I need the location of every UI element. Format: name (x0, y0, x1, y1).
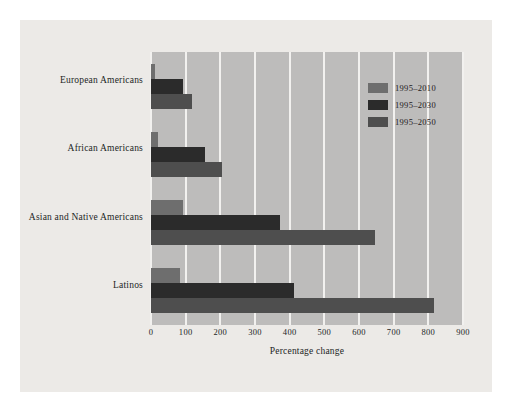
x-tick-label: 700 (387, 327, 401, 337)
bar (151, 268, 180, 283)
legend-label: 1995–2050 (395, 117, 436, 127)
bar (151, 79, 183, 94)
legend-item[interactable]: 1995–2030 (368, 97, 478, 112)
legend-swatch-icon (368, 117, 388, 127)
legend-item[interactable]: 1995–2050 (368, 114, 478, 129)
bar (151, 215, 280, 230)
x-tick-label: 200 (214, 327, 228, 337)
bar-group: African Americans (151, 132, 463, 177)
x-tick-label: 500 (318, 327, 332, 337)
x-tick-label: 300 (248, 327, 262, 337)
x-tick-label: 900 (456, 327, 470, 337)
bar (151, 162, 222, 177)
x-tick-label: 800 (422, 327, 436, 337)
bar (151, 147, 205, 162)
bar (151, 298, 434, 313)
figure-panel: European AmericansAfrican AmericansAsian… (20, 20, 492, 392)
bar (151, 230, 375, 245)
legend-item[interactable]: 1995–2010 (368, 80, 478, 95)
bar (151, 64, 155, 79)
x-axis-title: Percentage change (151, 346, 463, 356)
legend-label: 1995–2010 (395, 83, 436, 93)
chart-legend: 1995–20101995–20301995–2050 (368, 80, 478, 131)
x-tick-label: 100 (179, 327, 193, 337)
x-tick-label: 0 (149, 327, 154, 337)
legend-swatch-icon (368, 83, 388, 93)
bar (151, 94, 192, 109)
x-tick-label: 600 (352, 327, 366, 337)
legend-label: 1995–2030 (395, 100, 436, 110)
category-label: European Americans (23, 75, 143, 86)
category-label: Asian and Native Americans (23, 212, 143, 223)
category-label: African Americans (23, 143, 143, 154)
legend-swatch-icon (368, 100, 388, 110)
bar (151, 283, 294, 298)
bar-group: Latinos (151, 268, 463, 313)
bar (151, 132, 158, 147)
bar (151, 200, 183, 215)
category-label: Latinos (23, 280, 143, 291)
chart-screenshot: European AmericansAfrican AmericansAsian… (0, 0, 514, 412)
x-axis-tick-labels: 0100200300400500600700800900 (151, 327, 463, 341)
bar-group: Asian and Native Americans (151, 200, 463, 245)
x-tick-label: 400 (283, 327, 297, 337)
